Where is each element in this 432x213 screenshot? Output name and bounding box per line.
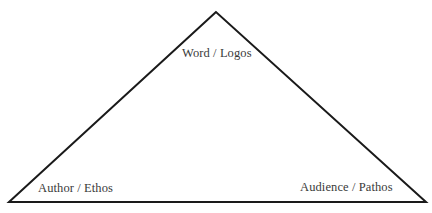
vertex-label-logos: Word / Logos [182, 47, 252, 60]
triangle-outline [9, 12, 426, 202]
vertex-label-ethos: Author / Ethos [38, 182, 113, 195]
vertex-label-pathos: Audience / Pathos [300, 181, 393, 194]
